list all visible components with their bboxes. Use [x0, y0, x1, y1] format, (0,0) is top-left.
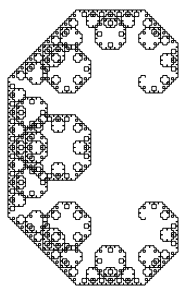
- levy-c-curve-drawing: [0, 0, 189, 304]
- fractal-canvas: [0, 0, 189, 304]
- fractal-path: [8, 10, 178, 285]
